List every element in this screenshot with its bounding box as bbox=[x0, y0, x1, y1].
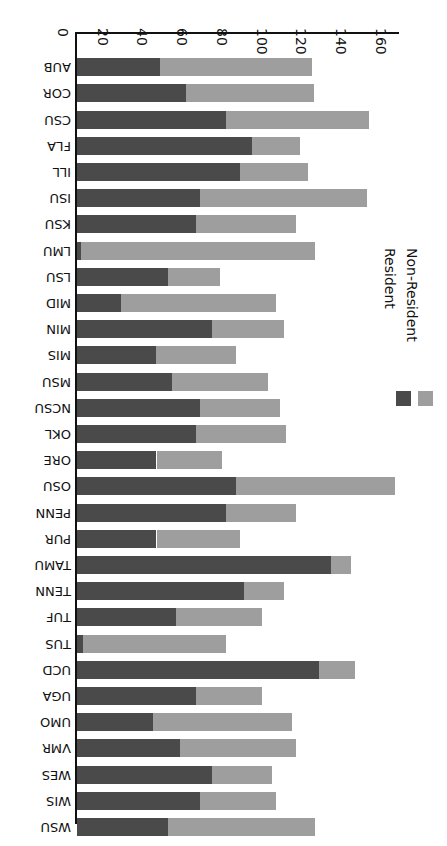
bar-segment-resident bbox=[77, 713, 153, 731]
bar-segment-resident bbox=[77, 425, 196, 443]
bar-segment-non-resident bbox=[168, 268, 220, 286]
bar-segment-non-resident bbox=[331, 556, 351, 574]
bar-segment-resident bbox=[77, 818, 168, 836]
bar-segment-non-resident bbox=[157, 451, 223, 469]
bar-segment-resident bbox=[77, 530, 157, 548]
bar-segment-non-resident bbox=[252, 137, 300, 155]
category-label: UGA bbox=[5, 687, 71, 705]
bar-segment-non-resident bbox=[200, 792, 276, 810]
axis-tick-label: 120 bbox=[294, 28, 310, 55]
category-label: MIN bbox=[5, 320, 71, 338]
bar-segment-resident bbox=[77, 451, 157, 469]
bar-segment-resident bbox=[77, 766, 212, 784]
bar-segment-non-resident bbox=[212, 320, 284, 338]
category-label: ILL bbox=[5, 163, 71, 181]
legend-swatch bbox=[396, 391, 411, 406]
bar-segment-resident bbox=[77, 399, 200, 417]
bar-segment-resident bbox=[77, 189, 200, 207]
category-label: UCD bbox=[5, 661, 71, 679]
bar-segment-non-resident bbox=[226, 504, 296, 522]
bar-segment-non-resident bbox=[200, 189, 367, 207]
bar-segment-non-resident bbox=[196, 215, 295, 233]
bar-segment-resident bbox=[77, 582, 244, 600]
bar-segment-resident bbox=[77, 792, 200, 810]
category-label: TUF bbox=[5, 608, 71, 626]
bar-segment-resident bbox=[77, 687, 196, 705]
bar-segment-non-resident bbox=[121, 294, 276, 312]
bar-segment-resident bbox=[77, 635, 83, 653]
bar-segment-non-resident bbox=[236, 477, 395, 495]
category-label: FLA bbox=[5, 137, 71, 155]
bar-segment-non-resident bbox=[244, 582, 284, 600]
legend-label: Non-Resident bbox=[404, 248, 420, 342]
bar-segment-non-resident bbox=[81, 242, 316, 260]
bar-segment-non-resident bbox=[83, 635, 226, 653]
axis-tick-label: 140 bbox=[333, 28, 349, 55]
chart-legend: Non-ResidentResident bbox=[353, 236, 433, 406]
bar-segment-resident bbox=[77, 242, 81, 260]
category-label: COR bbox=[5, 84, 71, 102]
axis-tick-label: 160 bbox=[373, 28, 389, 55]
bar-segment-resident bbox=[77, 268, 168, 286]
category-label: CSU bbox=[5, 111, 71, 129]
category-label: TUS bbox=[5, 635, 71, 653]
bar-segment-non-resident bbox=[226, 111, 369, 129]
bar-segment-resident bbox=[77, 477, 236, 495]
bar-segment-non-resident bbox=[319, 661, 355, 679]
axis-tick-label: 60 bbox=[174, 28, 190, 46]
bar-segment-resident bbox=[77, 111, 226, 129]
bar-segment-non-resident bbox=[157, 530, 240, 548]
axis-tick-label: 20 bbox=[95, 28, 111, 46]
bar-segment-resident bbox=[77, 504, 226, 522]
chart-screenshot: WSUWISWESVMRUMOUGAUCDTUSTUFTENNTAMUPURPE… bbox=[0, 0, 447, 846]
category-label: WSU bbox=[5, 818, 71, 836]
bar-segment-non-resident bbox=[180, 739, 295, 757]
bar-segment-non-resident bbox=[186, 84, 313, 102]
bar-segment-non-resident bbox=[160, 58, 311, 76]
bar-segment-resident bbox=[77, 84, 186, 102]
category-label: PENN bbox=[5, 504, 71, 522]
bar-segment-non-resident bbox=[196, 687, 262, 705]
axis-tick-label: 80 bbox=[214, 28, 230, 46]
bar-segment-resident bbox=[77, 58, 160, 76]
bar-segment-non-resident bbox=[240, 163, 308, 181]
category-label: MSU bbox=[5, 373, 71, 391]
bar-segment-resident bbox=[77, 661, 319, 679]
category-label: UMO bbox=[5, 713, 71, 731]
bar-segment-resident bbox=[77, 346, 157, 364]
category-label: KSU bbox=[5, 215, 71, 233]
bar-segment-resident bbox=[77, 739, 180, 757]
bar-segment-non-resident bbox=[168, 818, 315, 836]
category-label: AUB bbox=[5, 58, 71, 76]
bar-segment-non-resident bbox=[196, 425, 285, 443]
bar-segment-resident bbox=[77, 137, 252, 155]
category-label: WES bbox=[5, 766, 71, 784]
bar-chart-figure: WSUWISWESVMRUMOUGAUCDTUSTUFTENNTAMUPURPE… bbox=[0, 0, 447, 846]
bar-segment-resident bbox=[77, 556, 331, 574]
category-label: NCSU bbox=[5, 399, 71, 417]
axis-tick-label: 0 bbox=[55, 28, 71, 37]
legend-swatch bbox=[418, 391, 433, 406]
bar-segment-resident bbox=[77, 163, 240, 181]
bar-segment-non-resident bbox=[172, 373, 267, 391]
bar-segment-non-resident bbox=[212, 766, 272, 784]
category-label: VMR bbox=[5, 739, 71, 757]
bar-segment-resident bbox=[77, 373, 172, 391]
category-label: MIS bbox=[5, 346, 71, 364]
category-label: WIS bbox=[5, 792, 71, 810]
bar-segment-non-resident bbox=[200, 399, 280, 417]
category-label: LSU bbox=[5, 268, 71, 286]
category-label: ORE bbox=[5, 451, 71, 469]
bar-segment-non-resident bbox=[176, 608, 261, 626]
category-label: PUR bbox=[5, 530, 71, 548]
bar-segment-non-resident bbox=[153, 713, 292, 731]
bar-segment-resident bbox=[77, 215, 196, 233]
axis-tick-label: 100 bbox=[254, 28, 270, 55]
category-label: MID bbox=[5, 294, 71, 312]
bar-segment-resident bbox=[77, 608, 176, 626]
category-label: TENN bbox=[5, 582, 71, 600]
category-label: LMU bbox=[5, 242, 71, 260]
bar-segment-resident bbox=[77, 320, 212, 338]
category-label: TAMU bbox=[5, 556, 71, 574]
bar-segment-resident bbox=[77, 294, 121, 312]
